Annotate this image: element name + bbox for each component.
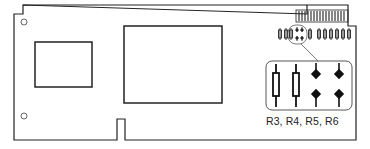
callout-resistors <box>273 64 299 107</box>
mounting-hole-top <box>21 19 27 25</box>
callout-label: R3, R4, R5, R6 <box>266 115 339 127</box>
large-chip <box>124 26 222 103</box>
callout-leader <box>301 44 318 61</box>
mounting-hole-bottom <box>21 113 27 119</box>
edge-connector <box>296 10 348 22</box>
small-chip <box>35 42 92 87</box>
callout-diodes <box>312 63 343 107</box>
